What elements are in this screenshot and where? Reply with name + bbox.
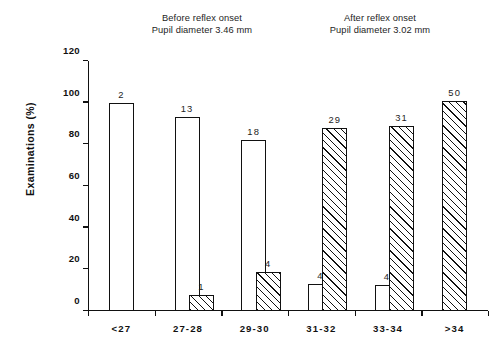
y-tick-label: 0 [74, 295, 80, 306]
plot-area: 020406080100120 213118442943150 <2727-28… [88, 61, 488, 311]
y-axis-title: Examinations (%) [24, 74, 36, 224]
bar-value-label: 2 [118, 89, 124, 100]
annotation-after-line1: After reflex onset [300, 13, 460, 25]
bar-value-label: 50 [448, 87, 461, 98]
y-tick [83, 185, 88, 186]
bar-value-label: 31 [395, 112, 408, 123]
x-category-label: >34 [445, 323, 465, 334]
x-category-label: 31-32 [306, 323, 336, 334]
x-tick [155, 311, 156, 316]
bar: 50 [442, 101, 467, 311]
x-tick [288, 311, 289, 316]
x-tick [421, 311, 422, 316]
bar-value-label: 4 [265, 258, 271, 269]
bar-value-label: 18 [247, 126, 260, 137]
y-tick [83, 60, 88, 61]
bar-value-label: 29 [329, 114, 342, 125]
x-category-label: <27 [112, 323, 132, 334]
bar: 2 [109, 103, 134, 311]
x-tick [88, 311, 89, 316]
y-tick-label: 80 [69, 128, 80, 139]
bar: 1 [189, 295, 214, 311]
y-tick [83, 143, 88, 144]
y-tick [83, 101, 88, 102]
bar: 29 [322, 128, 347, 311]
bar-value-label: 13 [181, 103, 194, 114]
annotation-before-reflex-onset: Before reflex onset Pupil diameter 3.46 … [122, 13, 282, 36]
annotation-before-line1: Before reflex onset [122, 13, 282, 25]
annotation-after-reflex-onset: After reflex onset Pupil diameter 3.02 m… [300, 13, 460, 36]
bar-value-label: 1 [198, 281, 204, 292]
bar: 31 [389, 126, 414, 311]
x-tick [488, 311, 489, 316]
y-tick [83, 226, 88, 227]
x-category-label: 29-30 [240, 323, 270, 334]
y-tick-label: 100 [63, 86, 80, 97]
y-axis-line [88, 61, 89, 311]
x-tick [355, 311, 356, 316]
bar-chart-figure: Before reflex onset Pupil diameter 3.46 … [0, 0, 498, 356]
annotation-before-line2: Pupil diameter 3.46 mm [122, 25, 282, 37]
y-tick-label: 40 [69, 211, 80, 222]
x-category-label: 27-28 [173, 323, 203, 334]
y-tick-label: 60 [69, 170, 80, 181]
bar: 4 [256, 272, 281, 311]
bar: 13 [175, 117, 200, 311]
x-category-label: 33-34 [373, 323, 403, 334]
x-tick [221, 311, 222, 316]
y-tick [83, 268, 88, 269]
y-tick-label: 120 [63, 45, 80, 56]
annotation-after-line2: Pupil diameter 3.02 mm [300, 25, 460, 37]
y-tick-label: 20 [69, 253, 80, 264]
